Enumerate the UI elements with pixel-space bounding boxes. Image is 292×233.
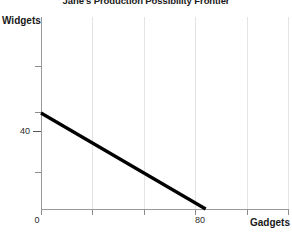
ppf-line (41, 113, 206, 209)
chart-screenshot: Jane's Production Possibility Frontier W… (0, 0, 292, 233)
ppf-line-chart (0, 0, 292, 233)
